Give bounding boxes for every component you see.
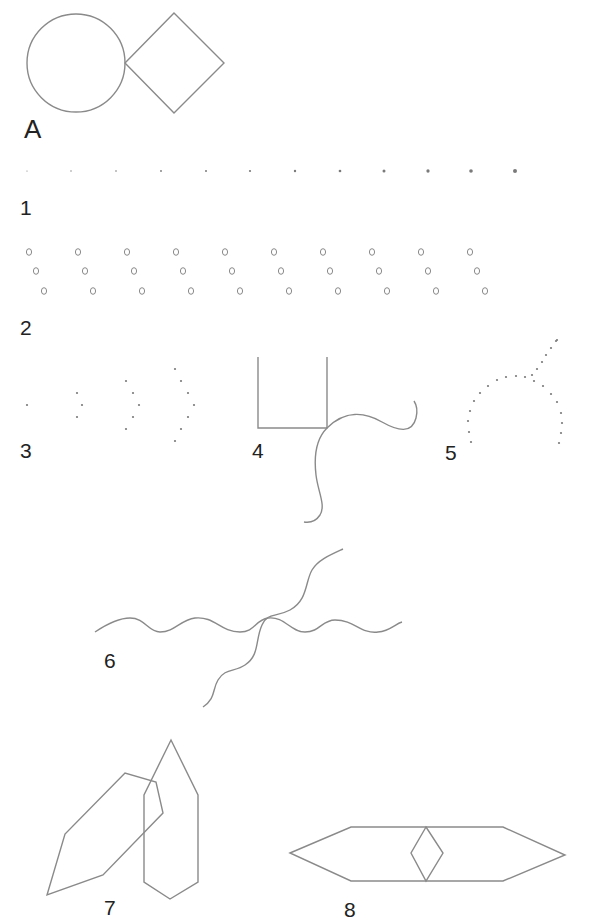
dot xyxy=(550,393,552,395)
dot xyxy=(70,170,71,171)
small-circle xyxy=(286,288,291,295)
dot xyxy=(187,416,189,418)
dot xyxy=(205,170,207,172)
figure-6-crossing-waves xyxy=(95,549,402,707)
small-circle xyxy=(335,288,340,295)
dot xyxy=(468,431,470,433)
small-circle xyxy=(124,249,129,256)
dot xyxy=(294,170,296,172)
dot xyxy=(496,379,498,381)
dot xyxy=(426,169,429,172)
gestalt-diagram xyxy=(0,0,593,921)
small-circle xyxy=(237,288,242,295)
dot xyxy=(125,428,127,430)
curve-down-line xyxy=(304,428,327,522)
small-circle xyxy=(188,288,193,295)
small-circle xyxy=(139,288,144,295)
small-circle xyxy=(131,268,136,275)
dot xyxy=(536,368,538,370)
small-circle xyxy=(26,249,31,256)
label-6: 6 xyxy=(104,650,116,671)
small-circle xyxy=(433,288,438,295)
dot xyxy=(174,440,176,442)
dot xyxy=(138,404,140,406)
dot xyxy=(560,432,562,434)
small-circle xyxy=(33,268,38,275)
elongated-hexagon-shape xyxy=(290,827,565,881)
dot xyxy=(81,404,83,406)
dot xyxy=(556,401,558,403)
dot xyxy=(487,385,489,387)
dot xyxy=(174,368,176,370)
figure-2-circle-groups xyxy=(26,249,487,295)
vertical-hexagon-shape xyxy=(144,740,198,899)
dot xyxy=(469,410,471,412)
curve-right-line xyxy=(327,401,417,429)
label-1: 1 xyxy=(20,197,32,218)
dot xyxy=(383,170,386,173)
small-circle xyxy=(384,288,389,295)
inner-diamond-shape xyxy=(411,827,443,881)
small-circle xyxy=(222,249,227,256)
open-box-shape xyxy=(258,357,327,428)
dot xyxy=(132,392,134,394)
dot xyxy=(560,412,562,414)
label-4: 4 xyxy=(252,440,264,461)
small-circle xyxy=(278,268,283,275)
dot xyxy=(187,392,189,394)
dot xyxy=(505,376,507,378)
dot xyxy=(26,170,27,171)
small-circle xyxy=(376,268,381,275)
small-circle xyxy=(41,288,46,295)
dot xyxy=(115,170,117,172)
small-circle xyxy=(229,268,234,275)
dot xyxy=(556,339,558,341)
small-circle xyxy=(482,288,487,295)
small-circle xyxy=(327,268,332,275)
dot xyxy=(550,347,552,349)
dot xyxy=(531,374,533,376)
horizontal-wave-line xyxy=(95,618,402,632)
label-7: 7 xyxy=(104,897,116,918)
dot xyxy=(193,404,195,406)
small-circle xyxy=(75,249,80,256)
small-circle xyxy=(82,268,87,275)
label-8: 8 xyxy=(344,899,356,920)
dot xyxy=(467,420,469,422)
dot xyxy=(26,404,28,406)
small-circle xyxy=(369,249,374,256)
dot xyxy=(524,376,526,378)
figure-3-chevron-dots xyxy=(26,368,195,442)
small-circle xyxy=(474,268,479,275)
dot xyxy=(542,385,544,387)
figure-4-box-and-curves xyxy=(258,357,417,522)
dot xyxy=(515,375,517,377)
dot xyxy=(76,392,78,394)
dot xyxy=(180,380,182,382)
dot xyxy=(561,422,563,424)
small-circle xyxy=(173,249,178,256)
dot xyxy=(339,170,342,173)
label-2: 2 xyxy=(20,317,32,338)
small-circle xyxy=(271,249,276,256)
figure-1-size-gradient-dots xyxy=(26,169,517,173)
dot xyxy=(125,380,127,382)
label-5: 5 xyxy=(445,442,457,463)
figure-a-circle-diamond xyxy=(27,13,224,113)
figure-7-overlapping-hexagons xyxy=(47,740,198,899)
dot xyxy=(513,169,517,173)
label-3: 3 xyxy=(20,440,32,461)
small-circle xyxy=(425,268,430,275)
dot xyxy=(470,441,472,443)
dot xyxy=(180,428,182,430)
small-circle xyxy=(90,288,95,295)
figure-8-hexagon-with-diamond xyxy=(290,827,565,881)
figure-5-dotted-arc-branch xyxy=(467,339,563,444)
circle-shape xyxy=(27,14,125,112)
dot xyxy=(479,392,481,394)
small-circle xyxy=(320,249,325,256)
dot xyxy=(541,361,543,363)
dot xyxy=(76,416,78,418)
diamond-shape xyxy=(125,13,224,113)
label-A: A xyxy=(24,116,41,142)
